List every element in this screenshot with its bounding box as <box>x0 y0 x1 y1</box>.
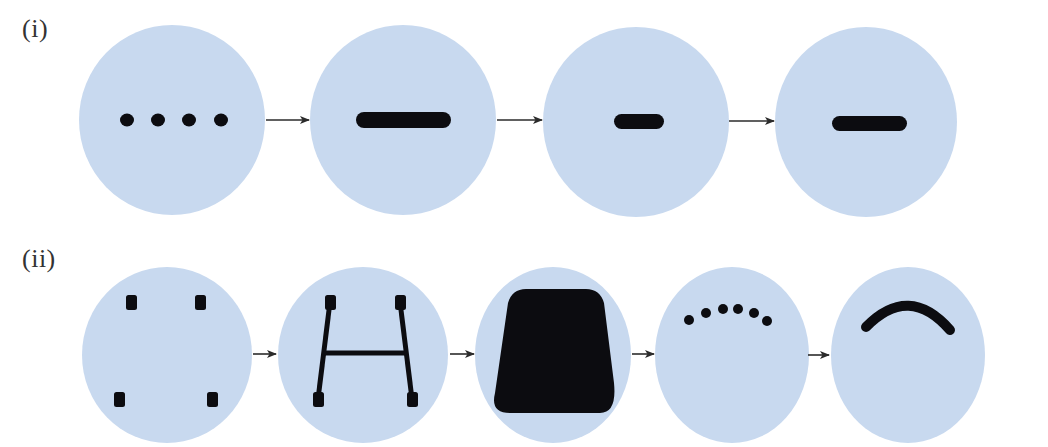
stage-ii-3-filled-trapezoid <box>475 267 631 443</box>
dot <box>684 315 694 325</box>
stage-ii-4-dots-arc <box>655 267 809 443</box>
row-i <box>79 25 957 217</box>
square-dot <box>126 295 137 310</box>
stage-i-3-short-bar <box>543 27 729 217</box>
stage-ii-5-thick-arc <box>831 267 985 443</box>
square-dot <box>325 295 336 310</box>
circle-background <box>655 267 809 443</box>
square-dot <box>114 392 125 407</box>
stage-i-1-four-dots <box>79 25 265 215</box>
circle-background <box>82 267 252 443</box>
square-dot <box>195 295 206 310</box>
dot <box>120 114 134 127</box>
square-dot <box>313 392 324 407</box>
diagram-canvas <box>0 0 1048 447</box>
stage-ii-2-h-frame <box>278 267 448 443</box>
dot <box>749 308 759 318</box>
square-dot <box>407 392 418 407</box>
dot <box>718 304 728 314</box>
dot <box>151 114 165 127</box>
circle-background <box>831 267 985 443</box>
square-dot <box>395 295 406 310</box>
circle-background <box>79 25 265 215</box>
row-ii <box>82 267 985 443</box>
bar <box>356 112 451 128</box>
dot <box>182 114 196 127</box>
stage-i-4-medium-bar <box>775 27 957 217</box>
dot <box>214 114 228 127</box>
dot <box>733 304 743 314</box>
bar <box>614 114 664 129</box>
square-dot <box>207 392 218 407</box>
stage-i-2-long-bar <box>310 25 496 215</box>
dot <box>762 316 772 326</box>
dot <box>701 308 711 318</box>
trapezoid <box>494 289 614 413</box>
bar <box>832 116 907 131</box>
stage-ii-1-four-squares <box>82 267 252 443</box>
